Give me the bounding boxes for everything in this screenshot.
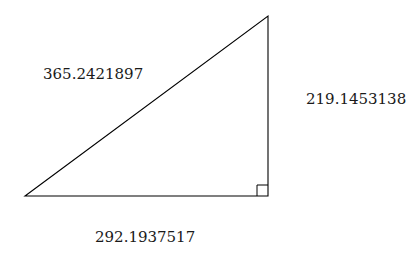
right-angle-marker-icon [257, 185, 268, 196]
triangle-outline [25, 16, 268, 196]
base-length-label: 292.1937517 [95, 230, 195, 245]
vertical-leg-length-label: 219.1453138 [306, 92, 406, 107]
right-triangle-figure [0, 0, 408, 253]
diagram-canvas: 365.2421897 219.1453138 292.1937517 [0, 0, 408, 253]
hypotenuse-length-label: 365.2421897 [43, 67, 143, 82]
